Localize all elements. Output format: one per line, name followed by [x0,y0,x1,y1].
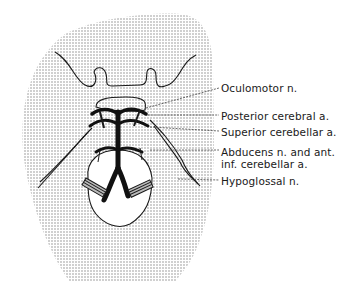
label-abducens-nerve-line1: Abducens n. and ant. [221,146,335,158]
label-hypoglossal-nerve: Hypoglossal n. [221,175,299,187]
diagram-artwork [0,0,338,285]
label-posterior-cerebral-artery: Posterior cerebral a. [221,110,329,122]
label-abducens-nerve-line2: inf. cerebellar a. [221,158,308,170]
label-superior-cerebellar-artery: Superior cerebellar a. [221,126,337,138]
label-oculomotor-nerve: Oculomotor n. [221,82,297,94]
anatomy-diagram: Oculomotor n. Posterior cerebral a. Supe… [0,0,338,285]
